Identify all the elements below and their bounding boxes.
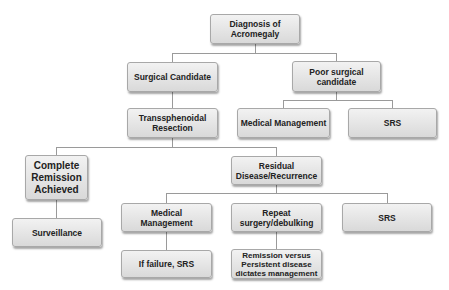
node-medical-management-poor: Medical Management [237,108,330,138]
connector [392,100,393,108]
connector [166,193,167,203]
connector [276,232,277,250]
connector [56,147,57,155]
node-surgical-candidate: Surgical Candidate [127,62,218,92]
node-remission-vs-persistent: Remission versus Persistent disease dict… [231,249,322,279]
node-diagnosis: Diagnosis of Acromegaly [210,14,300,44]
connector [172,138,173,147]
node-residual-disease: Residual Disease/Recurrence [231,156,322,185]
connector [336,92,337,100]
node-medical-management-residual: Medical Management [121,203,212,232]
node-srs-poor: SRS [348,108,437,138]
connector [166,232,167,250]
connector [283,100,393,101]
connector [56,200,57,218]
connector [172,92,173,108]
connector [56,147,277,148]
node-surveillance: Surveillance [12,218,102,247]
connector [172,53,173,62]
connector [283,100,284,108]
node-repeat-surgery: Repeat surgery/debulking [231,203,322,232]
node-if-failure-srs: If failure, SRS [121,250,212,278]
connector [276,185,277,193]
node-srs-residual: SRS [342,203,432,232]
connector [166,193,388,194]
connector [172,53,337,54]
node-complete-remission: Complete Remission Achieved [25,155,88,200]
connector [276,147,277,156]
node-transsphenoidal-resection: Transsphenoidal Resection [127,108,218,138]
node-poor-surgical-candidate: Poor surgical candidate [292,61,381,92]
connector [387,193,388,203]
